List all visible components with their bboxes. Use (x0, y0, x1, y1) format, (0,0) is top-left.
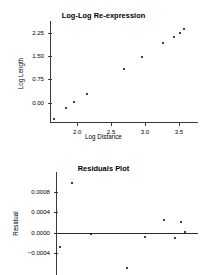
data-point (73, 101, 75, 103)
data-point (162, 42, 164, 44)
x-tick (145, 122, 146, 126)
y-tick-label: 2.25 (0, 29, 44, 36)
data-point (59, 246, 61, 248)
y-tick-label: 0.0008 (0, 188, 50, 195)
data-point (90, 233, 92, 235)
y-tick-label: 1.50 (0, 52, 44, 59)
log-log-plot-area: 0.000.751.502.252.02.53.03.5 (0, 0, 207, 148)
data-point (65, 107, 67, 109)
y-tick (48, 79, 52, 80)
data-point (144, 236, 146, 238)
y-tick (54, 192, 58, 193)
x-tick (77, 122, 78, 126)
data-point (173, 36, 175, 38)
data-point (183, 28, 185, 30)
y-tick (48, 103, 52, 104)
data-point (179, 32, 181, 34)
x-tick-label: 3.5 (167, 128, 191, 135)
x-tick (111, 122, 112, 126)
data-point (53, 118, 55, 120)
data-point (141, 56, 143, 58)
y-tick-label: 0.0000 (0, 229, 50, 236)
x-tick-label: 2.0 (65, 128, 89, 135)
y-tick-label: 0.0004 (0, 208, 50, 215)
data-point (174, 237, 176, 239)
x-tick-label: 2.5 (99, 128, 123, 135)
data-point (180, 221, 182, 223)
data-point (123, 68, 125, 70)
data-point (126, 267, 128, 269)
y-tick-label: −0.0004 (0, 249, 50, 256)
residuals-plot-area: 0.00080.00040.0000−0.0004 (0, 148, 207, 275)
y-tick (54, 253, 58, 254)
data-point (86, 93, 88, 95)
y-tick (48, 33, 52, 34)
residuals-chart: Residuals Plot Residual 0.00080.00040.00… (0, 148, 207, 275)
log-log-chart: Log-Log Re-expression Log Length Log Dis… (0, 0, 207, 148)
data-point (184, 231, 186, 233)
y-tick (54, 233, 58, 234)
x-tick-label: 3.0 (133, 128, 157, 135)
y-tick-label: 0.75 (0, 75, 44, 82)
x-tick (179, 122, 180, 126)
y-tick-label: 0.00 (0, 99, 44, 106)
y-tick (48, 56, 52, 57)
data-point (71, 182, 73, 184)
data-point (163, 219, 165, 221)
y-tick (54, 212, 58, 213)
